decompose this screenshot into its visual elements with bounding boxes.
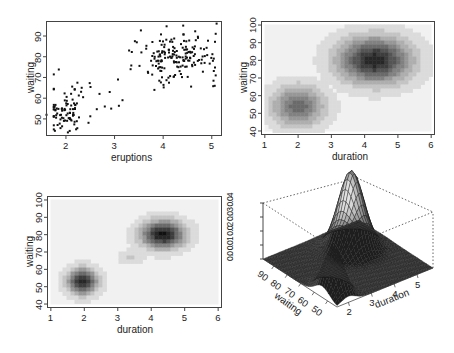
scatter-frame (47, 22, 222, 136)
surface-duration-tick-label: 3 (369, 297, 374, 308)
heatmap-x-ticks (265, 135, 431, 139)
scatter-y-tick-label: 50 (32, 114, 43, 125)
scatter-x-axis-title: eruptions (111, 152, 152, 163)
heatmap-y-tick-label: 90 (247, 38, 258, 49)
surface-duration-tick-label: 2 (346, 306, 351, 317)
heatmap-x-ticks (51, 308, 218, 312)
scatter-y-tick-label: 60 (32, 94, 43, 105)
heatmap-x-tick-label: 5 (395, 139, 400, 150)
heatmap-y-tick-label: 90 (33, 213, 44, 224)
heatmap-y-tick-label: 70 (247, 73, 258, 84)
heatmap-y-ticks (44, 200, 48, 304)
surface-duration-tick-label: 5 (415, 279, 420, 290)
heatmap-x-tick-label: 3 (115, 312, 120, 323)
scatter-x-ticks (66, 136, 212, 140)
heatmap-x-tick-label: 3 (328, 139, 333, 150)
density-surface-3d (260, 170, 433, 307)
scatter-x-tick-label: 2 (63, 140, 68, 151)
heatmap-smooth-x-axis-title: duration (332, 151, 368, 162)
heatmap-y-tick-label: 60 (33, 265, 44, 276)
heatmap-cells (265, 25, 433, 133)
surface-z-tick-labels: 0.0 0.01 0.02 0.03 0.04 (225, 193, 235, 261)
scatter-x-tick-label: 4 (160, 140, 165, 151)
heatmap-y-tick-label: 70 (33, 247, 44, 258)
heatmap-x-tick-label: 4 (362, 139, 367, 150)
scatter-x-tick-label: 5 (209, 140, 214, 151)
heatmap-y-tick-label: 100 (33, 192, 44, 208)
scatter-y-ticks (43, 36, 47, 119)
heatmap-x-tick-label: 6 (215, 312, 220, 323)
surface-duration-tick-label: 4 (392, 288, 397, 299)
scatter-y-tick-label: 80 (32, 52, 43, 63)
scatter-y-tick-label: 70 (32, 73, 43, 84)
heatmap-x-tick-label: 4 (148, 312, 153, 323)
heatmap-y-ticks (258, 25, 262, 131)
heatmap-x-tick-label: 1 (48, 312, 53, 323)
scatter-points (46, 23, 218, 134)
heatmap-y-tick-label: 80 (247, 56, 258, 67)
heatmap-x-tick-label: 1 (262, 139, 267, 150)
density-heatmap-sharp (44, 197, 222, 312)
density-heatmap-smooth (258, 22, 435, 139)
scatter-x-tick-label: 3 (112, 140, 117, 151)
heatmap-sharp-x-axis-title: duration (117, 324, 153, 335)
heatmap-cells (51, 200, 219, 305)
heatmap-y-tick-label: 50 (247, 109, 258, 120)
heatmap-y-tick-label: 40 (247, 126, 258, 137)
heatmap-x-tick-label: 6 (428, 139, 433, 150)
heatmap-y-tick-label: 80 (33, 230, 44, 241)
heatmap-y-tick-label: 60 (247, 91, 258, 102)
heatmap-x-tick-label: 2 (295, 139, 300, 150)
heatmap-y-tick-label: 100 (247, 17, 258, 33)
heatmap-y-tick-label: 40 (33, 299, 44, 310)
scatter-panel (43, 22, 222, 140)
heatmap-x-tick-label: 5 (182, 312, 187, 323)
heatmap-y-tick-label: 50 (33, 282, 44, 293)
heatmap-x-tick-label: 2 (81, 312, 86, 323)
scatter-y-tick-label: 90 (32, 31, 43, 42)
